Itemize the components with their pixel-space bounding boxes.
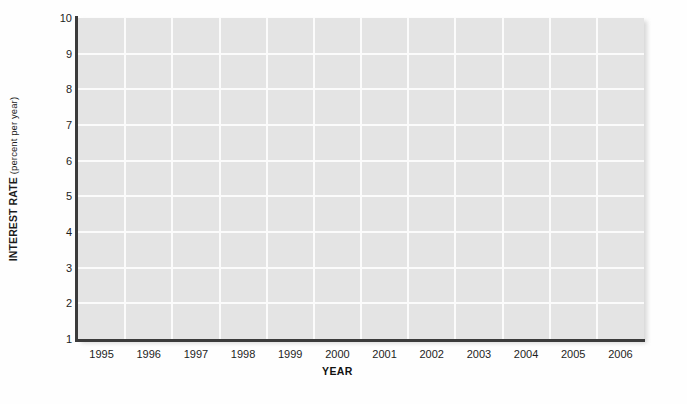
y-axis-tick-label: 5 [38,191,72,202]
x-axis-tick-label: 2002 [409,349,455,360]
vertical-gridline [407,18,409,339]
x-axis-tick-label: 2001 [362,349,408,360]
vertical-gridline [219,18,221,339]
vertical-gridline [313,18,315,339]
y-axis-tick-label: 4 [38,227,72,238]
x-axis-tick-label: 1995 [79,349,125,360]
vertical-gridline [502,18,504,339]
y-axis-title-units: (percent per year) [8,97,19,174]
y-axis-tick-label: 2 [38,298,72,309]
y-axis-title-main: INTEREST RATE [7,177,19,261]
y-axis-tick-label: 9 [38,48,72,59]
x-axis-tick-label: 2006 [597,349,643,360]
x-axis-tick-label: 1996 [126,349,172,360]
x-axis-tick-label: 1999 [267,349,313,360]
chart-figure: INTEREST RATE (percent per year) 1234567… [0,0,687,404]
x-axis-tick-label: 2000 [314,349,360,360]
x-axis-tick-label: 2003 [456,349,502,360]
x-axis-tick-labels: 1995199619971998199920002001200220032004… [78,349,644,365]
x-axis-title: YEAR [297,365,377,377]
y-axis-tick-label: 7 [38,120,72,131]
vertical-gridline [596,18,598,339]
y-axis-tick-label: 8 [38,84,72,95]
x-axis-tick-label: 2004 [503,349,549,360]
plot-area [78,18,644,339]
y-axis-title-text: INTEREST RATE (percent per year) [7,97,19,261]
vertical-gridline [360,18,362,339]
y-axis-line [75,16,78,342]
y-axis-title: INTEREST RATE (percent per year) [0,18,26,340]
vertical-gridline [171,18,173,339]
y-axis-tick-label: 6 [38,155,72,166]
y-axis-tick-label: 1 [38,334,72,345]
vertical-gridline [454,18,456,339]
y-axis-tick-label: 3 [38,262,72,273]
vertical-gridline [549,18,551,339]
x-axis-line [75,339,645,342]
vertical-gridline [266,18,268,339]
x-axis-tick-label: 1997 [173,349,219,360]
vertical-gridline [124,18,126,339]
x-axis-tick-label: 2005 [550,349,596,360]
y-axis-tick-labels: 12345678910 [38,18,72,340]
x-axis-tick-label: 1998 [220,349,266,360]
y-axis-tick-label: 10 [38,13,72,24]
